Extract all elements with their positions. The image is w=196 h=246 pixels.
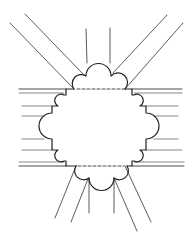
bottom-right-diagonal (114, 166, 151, 231)
lobed-plan-diagram (0, 0, 196, 246)
top-passage (86, 28, 110, 63)
top-right-diagonal (113, 15, 183, 89)
diagram-canvas (0, 0, 196, 246)
bottom-passage (89, 178, 114, 213)
right-passage (132, 89, 184, 166)
central-lobed-space (39, 64, 159, 191)
bottom-left-diagonal (55, 166, 88, 222)
left-passage (19, 89, 66, 166)
